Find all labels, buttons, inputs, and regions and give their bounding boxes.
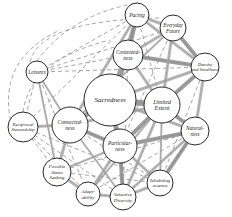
node-reciprocal-stewardship: ReciprocalStewardship xyxy=(8,112,38,142)
node-label: Leisures xyxy=(27,69,45,75)
node-label: Connected- xyxy=(58,119,83,125)
node-label: Limited xyxy=(152,99,171,105)
node-label: Stewardship xyxy=(11,127,35,132)
node-inhabiting-essence: Inhabitingessence xyxy=(147,170,173,196)
node-label: Future xyxy=(165,28,181,34)
node-density-smallness: Densityand Smallness xyxy=(191,53,219,81)
node-label: ness xyxy=(115,146,124,152)
node-leisures: Leisures xyxy=(26,61,48,83)
node-contentedness: Contented-ness xyxy=(113,40,143,70)
node-label: ness xyxy=(123,55,132,61)
node-label: essence xyxy=(153,183,169,188)
node-label: Reciprocal xyxy=(12,122,35,127)
node-label: ness xyxy=(65,125,74,131)
node-label: Contented- xyxy=(116,49,140,55)
node-label: ability xyxy=(82,195,96,200)
node-connectedness: Connected-ness xyxy=(52,107,88,143)
node-label: ness xyxy=(191,131,200,137)
node-sacredness: Sacredness xyxy=(84,74,136,126)
node-selective-diversity: SelectiveDiversity xyxy=(110,184,136,210)
node-label: Diversity xyxy=(113,198,133,203)
node-particularness: Particular-ness xyxy=(103,129,137,163)
network-diagram: PacingEverydayFutureContented-nessDensit… xyxy=(0,0,232,217)
node-label: Seeking xyxy=(50,175,66,180)
node-label: Particular- xyxy=(107,140,132,146)
node-label: Density xyxy=(197,62,214,67)
node-possible-status-seeking: PossibleStatusSeeking xyxy=(43,158,71,186)
node-adaptability: Adapt-ability xyxy=(76,182,100,206)
node-label: Possible xyxy=(48,164,66,169)
node-label: Selective xyxy=(114,192,133,197)
node-label: Adapt- xyxy=(80,189,95,194)
node-label: Inhabiting xyxy=(149,178,171,183)
node-label: and Smallness xyxy=(191,67,219,72)
node-label: Pacing xyxy=(128,12,145,18)
node-limited-extent: LimitedExtent xyxy=(144,87,180,123)
node-label: Sacredness xyxy=(94,96,126,104)
node-pacing: Pacing xyxy=(125,3,149,27)
node-naturalness: Natural-ness xyxy=(181,117,209,145)
node-everyday-future: EverydayFuture xyxy=(160,15,186,41)
node-label: Status xyxy=(51,170,63,175)
node-label: Extent xyxy=(154,105,170,111)
